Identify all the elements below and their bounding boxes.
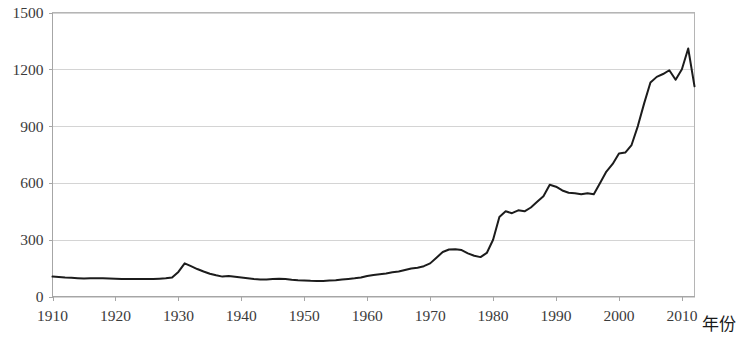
- y-tick-label-300: 300: [20, 231, 44, 248]
- x-tick-label-1930: 1930: [163, 307, 194, 324]
- x-tick-label-1990: 1990: [541, 307, 572, 324]
- x-tick-label-1920: 1920: [100, 307, 131, 324]
- data-series-group: [53, 48, 695, 281]
- plot-frame-group: [53, 13, 695, 297]
- y-tick-label-600: 600: [20, 174, 44, 191]
- chart-container: 030060090012001500 191019201930194019501…: [0, 0, 751, 349]
- line-chart: 030060090012001500 191019201930194019501…: [0, 0, 751, 349]
- y-tick-label-1500: 1500: [13, 4, 44, 21]
- plot-area-border: [53, 13, 695, 297]
- x-tick-label-1950: 1950: [289, 307, 320, 324]
- x-tick-label-1980: 1980: [478, 307, 509, 324]
- x-axis-title: 年份: [702, 314, 736, 334]
- x-tick-label-1970: 1970: [415, 307, 446, 324]
- y-tick-label-1200: 1200: [13, 61, 44, 78]
- x-tick-label-2010: 2010: [666, 307, 697, 324]
- x-tick-label-1910: 1910: [37, 307, 68, 324]
- x-tick-label-1940: 1940: [226, 307, 257, 324]
- tick-marks-group: [49, 14, 683, 301]
- x-axis-tick-labels: 1910192019301940195019601970198019902000…: [37, 307, 698, 324]
- x-tick-label-2000: 2000: [603, 307, 634, 324]
- y-tick-label-0: 0: [36, 288, 44, 305]
- y-tick-label-900: 900: [20, 118, 44, 135]
- x-tick-label-1960: 1960: [352, 307, 383, 324]
- y-axis-tick-labels: 030060090012001500: [13, 4, 44, 305]
- series-line-path: [53, 48, 695, 281]
- gridlines-group: [53, 14, 695, 298]
